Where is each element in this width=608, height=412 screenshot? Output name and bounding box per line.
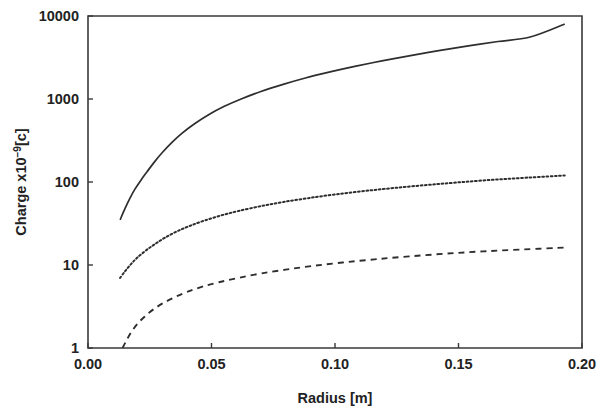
y-axis-title: Charge x10−9[c] — [12, 128, 29, 235]
chart-canvas: 0.000.050.100.150.20 110100100010000 Rad… — [0, 0, 608, 412]
y-tick-label: 1 — [71, 340, 79, 356]
y-axis-title-suffix: [c] — [13, 128, 29, 146]
y-tick-label: 10 — [63, 257, 79, 273]
y-axis-title-prefix: Charge x10 — [13, 157, 29, 235]
data-curve-dashed — [123, 248, 565, 348]
y-axis-title-exponent: −9 — [12, 146, 23, 158]
x-tick-label: 0.20 — [568, 356, 596, 372]
y-tick-label: 1000 — [47, 91, 79, 107]
data-curve-solid — [120, 24, 565, 220]
x-axis-title: Radius [m] — [298, 390, 373, 406]
y-tick-label: 10000 — [39, 8, 79, 24]
x-axis-tick-labels: 0.000.050.100.150.20 — [74, 356, 596, 372]
plot-frame — [88, 16, 582, 348]
chart-figure: 0.000.050.100.150.20 110100100010000 Rad… — [0, 0, 608, 412]
x-tick-label: 0.15 — [444, 356, 472, 372]
x-tick-label: 0.10 — [321, 356, 349, 372]
y-axis-tick-labels: 110100100010000 — [39, 8, 79, 356]
y-tick-label: 100 — [55, 174, 79, 190]
x-tick-label: 0.05 — [197, 356, 225, 372]
data-series-group — [120, 24, 565, 348]
x-tick-label: 0.00 — [74, 356, 102, 372]
